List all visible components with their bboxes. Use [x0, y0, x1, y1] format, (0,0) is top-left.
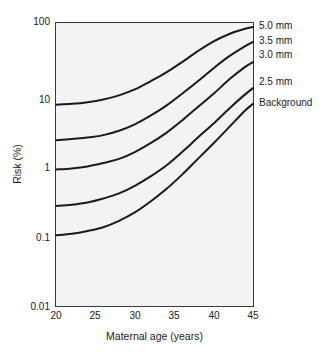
curve-label-3-0mm: 3.0 mm [259, 50, 292, 60]
y-axis-title: Risk (%) [11, 119, 23, 209]
x-tick-label: 30 [122, 311, 148, 321]
curve-label-background: Background [259, 98, 312, 108]
curve-label-3-5mm: 3.5 mm [259, 36, 292, 46]
curve-label-5-0mm: 5.0 mm [259, 21, 292, 31]
risk-vs-maternal-age-chart: 100 10 1 0.1 0.01 20 25 30 35 40 45 Mate… [0, 0, 333, 356]
curve-label-2-5mm: 2.5 mm [259, 77, 292, 87]
x-tick-label: 25 [82, 311, 108, 321]
x-tick-label: 20 [43, 311, 69, 321]
curve-annotations: 5.0 mm 3.5 mm 3.0 mm 2.5 mm Background [259, 0, 333, 356]
x-tick-label: 40 [201, 311, 227, 321]
x-tick-label: 35 [161, 311, 187, 321]
x-axis-title: Maternal age (years) [55, 330, 254, 342]
